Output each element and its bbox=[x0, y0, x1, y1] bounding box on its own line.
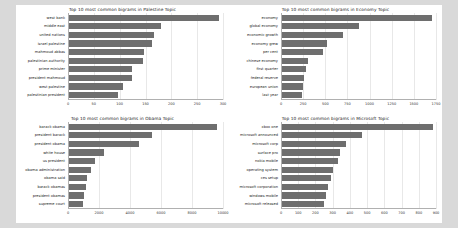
x-axis-tick-label: 700 bbox=[398, 211, 405, 215]
bar-row: ces setup bbox=[281, 175, 436, 182]
bar bbox=[281, 92, 302, 98]
y-axis-tick-label: per cent bbox=[263, 50, 278, 54]
y-axis-tick-label: president obamas bbox=[33, 194, 65, 198]
bar bbox=[68, 141, 139, 147]
bar bbox=[281, 192, 326, 198]
chart-title: Top 10 most common bigrams in Economy To… bbox=[229, 7, 442, 12]
x-axis-tick-label: 6000 bbox=[157, 211, 166, 215]
y-axis-tick-label: israel palestine bbox=[38, 42, 65, 46]
y-axis-tick-label: supreme court bbox=[39, 202, 65, 206]
y-axis-tick-label: us president bbox=[43, 159, 65, 163]
bar bbox=[281, 66, 306, 72]
bar-row: chinese economy bbox=[281, 57, 436, 64]
y-axis-tick-label: nokia mobile bbox=[255, 159, 278, 163]
chart-panel-obama: Top 10 most common bigrams in Obama Topi… bbox=[16, 114, 229, 223]
bar bbox=[281, 141, 346, 147]
bar bbox=[68, 149, 104, 155]
y-axis-tick-label: surface pro bbox=[258, 151, 278, 155]
x-axis-tick-label: 8000 bbox=[188, 211, 197, 215]
y-axis-tick-label: middle east bbox=[44, 24, 65, 28]
gridline bbox=[436, 122, 437, 209]
bar bbox=[68, 92, 118, 98]
bar bbox=[68, 83, 123, 89]
y-axis-tick-label: mahmoud abbas bbox=[35, 50, 65, 54]
y-axis-line bbox=[281, 13, 282, 100]
bar-rows: economyglobal economyeconomic growthecon… bbox=[281, 13, 436, 100]
bar-row: israel palestine bbox=[68, 40, 223, 47]
bar-row: president obama bbox=[68, 140, 223, 147]
bar-row: barack obama bbox=[68, 123, 223, 130]
bar bbox=[281, 167, 333, 173]
y-axis-tick-label: ces setup bbox=[261, 176, 278, 180]
y-axis-tick-label: economic growth bbox=[247, 33, 278, 37]
y-axis-tick-label: white house bbox=[43, 151, 65, 155]
x-tick-labels: 0100200300400500600700800900 bbox=[281, 211, 436, 219]
y-axis-tick-label: global economy bbox=[249, 24, 278, 28]
bar-row: obama administration bbox=[68, 166, 223, 173]
bar-row: president barack bbox=[68, 132, 223, 139]
x-axis-tick-label: 100 bbox=[295, 211, 302, 215]
chart-title: Top 10 most common bigrams in Microsoft … bbox=[229, 116, 442, 121]
bar-row: barack obamas bbox=[68, 183, 223, 190]
bar-row: palestinian authority bbox=[68, 57, 223, 64]
bar-row: microsoft released bbox=[281, 200, 436, 207]
bar-row: obama said bbox=[68, 175, 223, 182]
bar bbox=[68, 132, 152, 138]
y-axis-tick-label: microsoft corporation bbox=[239, 185, 278, 189]
bar-row: windows mobile bbox=[281, 192, 436, 199]
gridline bbox=[223, 13, 224, 100]
x-axis-tick-label: 900 bbox=[433, 211, 440, 215]
bar bbox=[281, 149, 340, 155]
chart-title: Top 10 most common bigrams in Obama Topi… bbox=[16, 116, 229, 121]
bar bbox=[68, 124, 217, 130]
bar-row: federal reserve bbox=[281, 74, 436, 81]
y-axis-tick-label: windows mobile bbox=[249, 194, 278, 198]
bar-row: prime minister bbox=[68, 66, 223, 73]
bar bbox=[281, 23, 359, 29]
x-axis-tick-label: 200 bbox=[312, 211, 319, 215]
y-axis-tick-label: obama administration bbox=[25, 168, 65, 172]
y-axis-tick-label: barack obamas bbox=[37, 185, 65, 189]
y-axis-tick-label: barack obama bbox=[39, 125, 65, 129]
y-axis-tick-label: west bank bbox=[47, 16, 65, 20]
bar bbox=[68, 32, 154, 38]
bar bbox=[68, 184, 86, 190]
bar-row: last year bbox=[281, 91, 436, 98]
x-axis-tick-label: 0 bbox=[280, 211, 282, 215]
bar bbox=[281, 49, 323, 55]
bar bbox=[281, 175, 331, 181]
x-axis-tick-label: 250 bbox=[300, 102, 307, 106]
y-axis-tick-label: federal reserve bbox=[251, 76, 278, 80]
y-axis-tick-label: last year bbox=[262, 93, 278, 97]
bar-row: middle east bbox=[68, 23, 223, 30]
x-axis-tick-label: 100 bbox=[116, 102, 123, 106]
x-axis-tick-label: 50 bbox=[92, 102, 96, 106]
x-axis-tick-label: 500 bbox=[364, 211, 371, 215]
bar-rows: west bankmiddle eastunited nationsisrael… bbox=[68, 13, 223, 100]
bar bbox=[68, 40, 152, 46]
x-axis-line bbox=[281, 99, 436, 100]
bar-row: per cent bbox=[281, 48, 436, 55]
bar-row: economy grew bbox=[281, 40, 436, 47]
x-axis-tick-label: 1750 bbox=[432, 102, 441, 106]
bar-row: global economy bbox=[281, 23, 436, 30]
bar-row: us president bbox=[68, 157, 223, 164]
y-axis-tick-label: president barack bbox=[35, 133, 65, 137]
y-axis-line bbox=[68, 122, 69, 209]
bar bbox=[281, 58, 308, 64]
bar bbox=[281, 124, 433, 130]
bar-row: president mahmoud bbox=[68, 74, 223, 81]
bar-row: economy bbox=[281, 14, 436, 21]
x-tick-labels: 02505007501000125015001750 bbox=[281, 102, 436, 110]
x-axis-tick-label: 0 bbox=[67, 211, 69, 215]
bar-row: west palestine bbox=[68, 83, 223, 90]
y-axis-tick-label: prime minister bbox=[39, 67, 65, 71]
y-axis-tick-label: economy grew bbox=[252, 42, 278, 46]
bar bbox=[68, 158, 95, 164]
bar bbox=[281, 201, 324, 207]
bar-rows: xbox onemicrosoft announcedmicrosoft cor… bbox=[281, 122, 436, 209]
x-axis-tick-label: 1000 bbox=[365, 102, 374, 106]
y-axis-tick-label: microsoft corp bbox=[252, 142, 278, 146]
chart-title: Top 10 most common bigrams in Palestine … bbox=[16, 7, 229, 12]
y-axis-tick-label: microsoft announced bbox=[240, 133, 278, 137]
